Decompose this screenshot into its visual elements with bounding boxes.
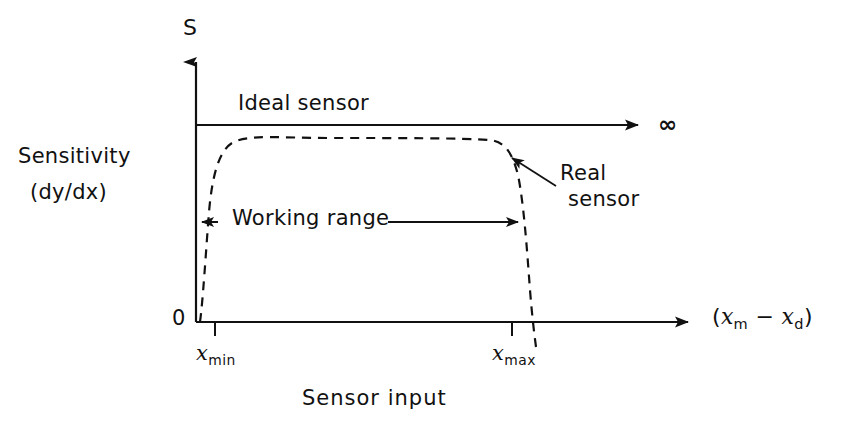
xmin-subscript: min bbox=[208, 352, 236, 368]
x-axis-paren-close: ) bbox=[804, 304, 813, 329]
y-axis-title-line2: (dy/dx) bbox=[30, 179, 131, 205]
y-axis-title: Sensitivity (dy/dx) bbox=[18, 143, 131, 206]
x-axis-var-d: x bbox=[782, 304, 795, 329]
x-axis-var-d-sub: d bbox=[794, 316, 804, 332]
ideal-sensor-label: Ideal sensor bbox=[238, 90, 369, 116]
xmax-subscript: max bbox=[504, 352, 536, 368]
y-axis-title-line1: Sensitivity bbox=[18, 143, 131, 169]
xmin-base: x bbox=[196, 341, 208, 365]
xmax-label: xmax bbox=[492, 340, 536, 370]
x-axis-caption: Sensor input bbox=[302, 385, 447, 411]
x-axis-paren-open: ( bbox=[712, 304, 721, 329]
x-axis-minus: − bbox=[748, 304, 781, 329]
x-axis-variable-label: (xm − xd) bbox=[712, 303, 813, 334]
real-sensor-label-line2: sensor bbox=[568, 186, 639, 212]
xmax-base: x bbox=[492, 341, 504, 365]
y-axis-tip-label: S bbox=[183, 14, 197, 42]
x-axis-var-m: x bbox=[721, 304, 734, 329]
x-axis-var-m-sub: m bbox=[734, 316, 749, 332]
xmin-label: xmin bbox=[196, 340, 236, 370]
real-sensor-label: Real sensor bbox=[560, 160, 639, 213]
sensor-sensitivity-figure: S ∞ Ideal sensor Real sensor Working ran… bbox=[0, 0, 862, 437]
real-sensor-label-line1: Real bbox=[560, 160, 639, 186]
working-range-label: Working range bbox=[232, 205, 389, 231]
origin-label: 0 bbox=[172, 305, 186, 331]
infinity-symbol: ∞ bbox=[658, 110, 677, 139]
figure-canvas bbox=[0, 0, 862, 437]
real-sensor-curve bbox=[200, 137, 536, 347]
